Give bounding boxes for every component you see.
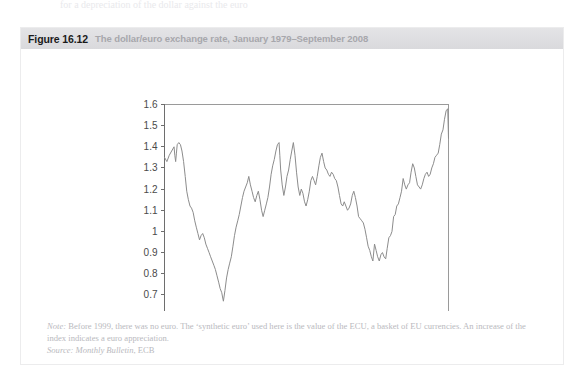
figure-caption: The dollar/euro exchange rate, January 1… — [95, 33, 368, 44]
y-axis-tick-label: 0.8 — [144, 268, 158, 279]
exchange-rate-series-line — [165, 109, 449, 301]
source-rest: , ECB — [134, 345, 155, 355]
source-label: Source: — [47, 345, 73, 355]
y-axis-tick-label: 1.3 — [144, 162, 158, 173]
y-axis-tick-label: 0.9 — [144, 247, 158, 258]
y-axis-tick-marks — [161, 105, 165, 312]
y-axis-tick-label: 1.4 — [144, 141, 158, 152]
source-publication: Monthly Bulletin — [73, 345, 133, 355]
note-label: Note: — [47, 321, 66, 331]
figure-container: Figure 16.12 The dollar/euro exchange ra… — [20, 27, 564, 365]
figure-number: Figure 16.12 — [28, 33, 88, 45]
exchange-rate-line-chart: 0.60.70.80.911.11.21.31.41.51.6 Jan-79Ja… — [21, 49, 565, 311]
figure-note-line: Note: Before 1999, there was no euro. Th… — [47, 320, 547, 344]
y-axis-tick-label: 1.6 — [144, 99, 158, 110]
y-axis-tick-label: 0.7 — [144, 289, 158, 300]
y-axis-tick-label: 1.1 — [144, 205, 158, 216]
figure-header-bar: Figure 16.12 The dollar/euro exchange ra… — [21, 28, 563, 49]
y-axis-tick-label: 1.2 — [144, 184, 158, 195]
chart-area: 0.60.70.80.911.11.21.31.41.51.6 Jan-79Ja… — [21, 49, 565, 311]
y-axis-tick-label: 1.5 — [144, 120, 158, 131]
y-axis-tick-label: 1 — [152, 226, 158, 237]
y-axis-tick-labels: 0.60.70.80.911.11.21.31.41.51.6 — [144, 99, 158, 311]
note-text: Before 1999, there was no euro. The ‘syn… — [47, 321, 526, 343]
page-top-bleed-text: for a depreciation of the dollar against… — [60, 0, 480, 10]
figure-notes: Note: Before 1999, there was no euro. Th… — [47, 320, 547, 357]
y-axis-tick-label: 0.6 — [144, 311, 158, 312]
figure-source-line: Source: Monthly Bulletin, ECB — [47, 344, 547, 356]
